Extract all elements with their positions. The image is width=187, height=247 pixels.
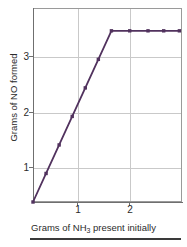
data-point-7 — [128, 29, 131, 32]
data-point-9 — [162, 29, 165, 32]
chart-figure: 3 2 1 1 2 Grams of NO formed Grams of NH… — [0, 0, 187, 247]
data-point-1 — [44, 172, 47, 175]
x-axis-title-subscript: 3 — [87, 227, 91, 234]
series-markers — [31, 29, 181, 204]
data-series-layer — [0, 0, 187, 247]
data-point-4 — [84, 86, 87, 89]
data-point-2 — [57, 143, 60, 146]
data-point-10 — [178, 29, 181, 32]
x-axis-title: Grams of NH3 present initially — [0, 222, 187, 233]
data-point-8 — [146, 29, 149, 32]
x-axis-title-post: present initially — [90, 222, 155, 233]
x-axis-title-pre: Grams of NH — [31, 222, 86, 233]
data-point-5 — [97, 58, 100, 61]
y-axis-title: Grams of NO formed — [8, 38, 19, 158]
series-line — [33, 31, 179, 202]
bottom-rule — [30, 238, 181, 240]
data-point-3 — [71, 115, 74, 118]
data-point-0 — [31, 200, 34, 203]
data-point-6 — [110, 29, 113, 32]
